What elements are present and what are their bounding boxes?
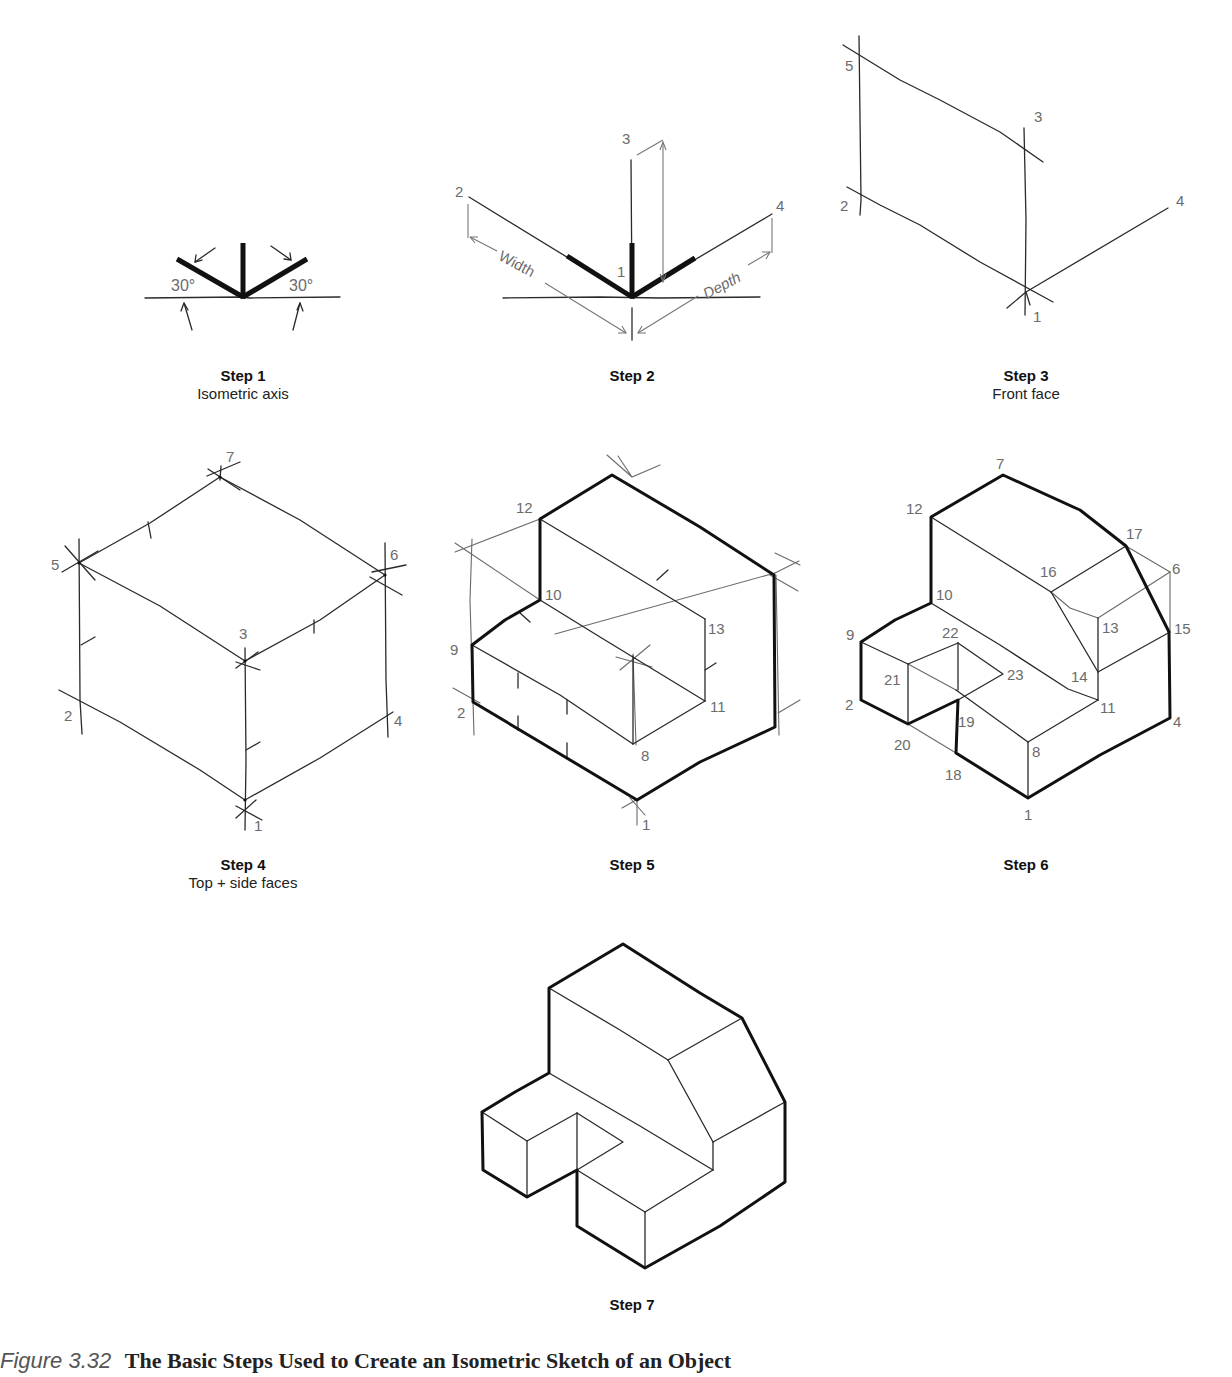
figure-caption: Figure 3.32 The Basic Steps Used to Crea… — [0, 1348, 1232, 1377]
figure-title: The Basic Steps Used to Create an Isomet… — [125, 1348, 731, 1373]
step7-title: Step 7 — [512, 1296, 752, 1314]
step7-caption: Step 7 — [512, 1296, 752, 1314]
figure-number: Figure 3.32 — [0, 1348, 111, 1373]
